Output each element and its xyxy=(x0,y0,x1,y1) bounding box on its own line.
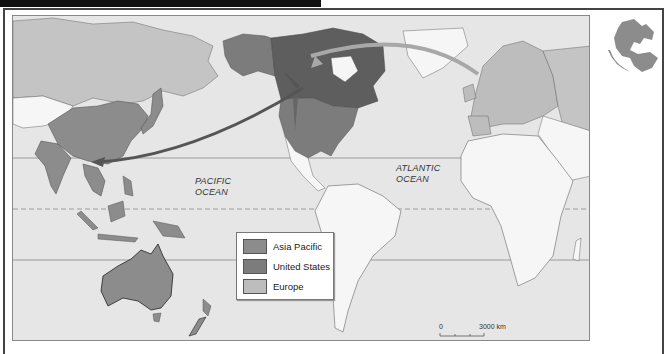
scale-bar: 0 3000 km xyxy=(437,323,517,341)
globe-icon xyxy=(604,14,664,76)
map-legend: Asia Pacific United States Europe xyxy=(236,232,334,300)
new-guinea-region xyxy=(153,221,185,238)
title-bar xyxy=(0,0,321,7)
legend-swatch xyxy=(243,239,267,254)
russia-region xyxy=(13,18,218,106)
legend-swatch xyxy=(243,279,267,294)
pacific-ocean-label: PACIFIC OCEAN xyxy=(195,176,231,198)
legend-item-asia-pacific: Asia Pacific xyxy=(243,238,322,254)
atlantic-ocean-label: ATLANTIC OCEAN xyxy=(396,163,440,185)
legend-swatch xyxy=(243,259,267,274)
alaska-region xyxy=(223,34,275,76)
legend-item-europe: Europe xyxy=(243,278,304,294)
australia-region xyxy=(101,244,173,310)
legend-item-united-states: United States xyxy=(243,258,330,274)
